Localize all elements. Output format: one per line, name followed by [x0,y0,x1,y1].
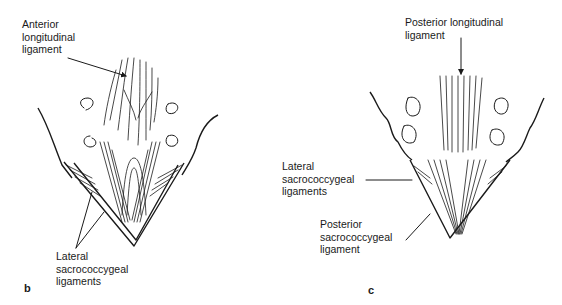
label-posterior-sacrococcygeal-ligament: Posterior sacrococcygeal ligament [320,218,392,256]
label-lateral-sacrococcygeal-ligaments-c: Lateral sacrococcygeal ligaments [282,160,354,198]
panel-letter-b: b [24,282,31,294]
label-anterior-longitudinal-ligament: Anterior longitudinal ligament [22,18,75,56]
label-posterior-longitudinal-ligament: Posterior longitudinal ligament [405,16,503,41]
panel-letter-c: c [368,284,374,296]
panel-b-drawing [38,58,218,248]
label-lateral-sacrococcygeal-ligaments-b: Lateral sacrococcygeal ligaments [56,250,128,288]
panel-c-drawing [366,38,544,240]
